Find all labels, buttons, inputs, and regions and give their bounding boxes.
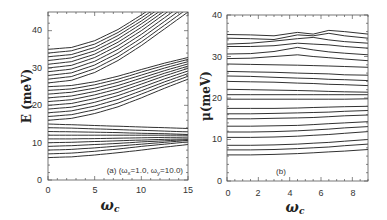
- data-line: [227, 76, 368, 81]
- panel-b-xtick-6: 6: [318, 188, 323, 198]
- panel-b-ytick-20: 20: [212, 93, 222, 103]
- data-line: [227, 64, 368, 67]
- panel-b-ylabel: μ(meV): [199, 71, 213, 121]
- data-line: [48, 128, 188, 132]
- panel-a-ytick-0: 0: [37, 175, 42, 185]
- data-line: [227, 106, 368, 108]
- panel-b-frame: [227, 15, 368, 181]
- panel-a-annotation: (a) (ωx=1.0, ωy=10.0): [107, 166, 184, 176]
- panel-b-ytick-40: 40: [212, 10, 222, 20]
- panel-b-xtick-2: 2: [255, 188, 260, 198]
- panel-b-ytick-30: 30: [212, 52, 222, 62]
- panel-b-annotation: (b): [276, 167, 286, 176]
- data-line: [227, 71, 368, 75]
- panel-a-lines: [48, 0, 188, 158]
- panel-b-xtick-8: 8: [350, 188, 355, 198]
- panel-b: 0 10 20 30 40 0 2 4 6 8 μ(meV) ωc (b): [199, 10, 368, 216]
- panel-a-ytick-40: 40: [32, 25, 42, 35]
- panel-b-lines: [227, 30, 368, 154]
- data-line: [48, 8, 188, 79]
- data-line: [227, 122, 368, 127]
- panel-b-xtick-4: 4: [287, 188, 292, 198]
- data-line: [48, 0, 188, 57]
- panel-b-xtick-0: 0: [225, 188, 230, 198]
- data-line: [227, 55, 368, 61]
- panel-b-ytick-0: 0: [217, 176, 222, 186]
- data-line: [227, 115, 368, 119]
- panel-a-xtick-15: 15: [183, 185, 193, 195]
- panel-a-xtick-5: 5: [92, 185, 97, 195]
- data-line: [48, 137, 188, 139]
- panel-a: 0 10 20 30 40 0 5 10 15 E (meV) ωc (a) (…: [20, 0, 193, 214]
- data-line: [227, 132, 368, 138]
- panel-a-ytick-10: 10: [32, 138, 42, 148]
- panel-a-xlabel: ωc: [101, 197, 120, 214]
- panel-a-ylabel: E (meV): [20, 69, 34, 123]
- data-line: [227, 89, 368, 92]
- data-line: [227, 81, 368, 85]
- data-line: [48, 132, 188, 135]
- panel-b-xlabel: ωc: [286, 199, 305, 216]
- data-line: [48, 145, 188, 158]
- data-line: [227, 140, 368, 146]
- panel-b-ticks: [227, 15, 368, 181]
- data-line: [48, 1, 188, 72]
- data-line: [227, 111, 368, 114]
- panel-a-xtick-0: 0: [45, 185, 50, 195]
- panel-a-xtick-10: 10: [136, 185, 146, 195]
- data-line: [227, 127, 368, 132]
- data-line: [227, 47, 368, 54]
- figure: 0 10 20 30 40 0 5 10 15 E (meV) ωc (a) (…: [0, 0, 387, 220]
- panel-b-ytick-10: 10: [212, 134, 222, 144]
